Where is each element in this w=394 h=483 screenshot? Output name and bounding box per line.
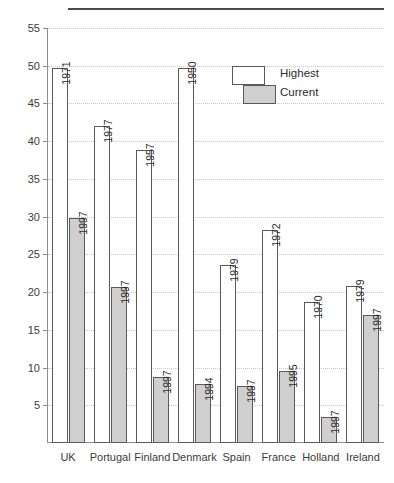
y-tick-mark [43,368,47,369]
y-tick-mark [43,179,47,180]
bar-year-label: 1994 [203,377,215,400]
top-divider-rule [68,8,384,10]
gridline [48,103,384,104]
bar-highest-ireland: 1979 [346,286,362,443]
y-tick-mark [43,254,47,255]
y-tick-label: 20 [28,286,40,298]
gridline [48,66,384,67]
bar-highest-portugal: 1977 [94,126,110,443]
y-tick-label: 55 [28,22,40,34]
bar-highest-denmark: 1950 [178,68,194,443]
legend-label-current: Current [280,86,318,98]
y-tick-label: 15 [28,324,40,336]
bar-highest-france: 1972 [262,230,278,443]
y-tick-label: 40 [28,135,40,147]
bar-year-label: 1979 [228,258,240,281]
bar-year-label: 1997 [161,371,173,394]
y-tick-mark [43,141,47,142]
y-tick-mark [43,405,47,406]
bar-year-label: 1997 [77,211,89,234]
y-tick-label: 35 [28,173,40,185]
y-tick-label: 45 [28,97,40,109]
legend-swatch-highest-icon [232,66,265,85]
bar-year-label: 1970 [312,295,324,318]
bar-highest-uk: 1971 [52,68,68,443]
y-tick-mark [43,28,47,29]
bar-chart: 510152025303540455055 197119971977199719… [0,0,394,483]
bar-year-label: 1995 [287,365,299,388]
legend-label-highest: Highest [280,67,319,79]
bar-year-label: 1957 [144,144,156,167]
bar-current-portugal: 1997 [111,287,127,443]
x-label-uk: UK [60,451,75,463]
bar-current-france: 1995 [279,371,295,443]
bar-current-holland: 1997 [321,417,337,443]
bar-year-label: 1950 [186,61,198,84]
bar-year-label: 1972 [270,224,282,247]
bar-highest-finland: 1957 [136,150,152,443]
bar-year-label: 1979 [354,279,366,302]
bar-year-label: 1997 [371,309,383,332]
bar-year-label: 1977 [102,119,114,142]
gridline [48,28,384,29]
y-tick-label: 50 [28,60,40,72]
x-label-denmark: Denmark [172,451,217,463]
y-tick-label: 10 [28,362,40,374]
y-tick-label: 5 [34,399,40,411]
bar-current-uk: 1997 [69,218,85,443]
bar-year-label: 1997 [329,410,341,433]
bar-year-label: 1997 [119,280,131,303]
bar-year-label: 1971 [60,61,72,84]
y-tick-label: 30 [28,211,40,223]
x-label-ireland: Ireland [346,451,380,463]
x-label-spain: Spain [222,451,250,463]
bar-highest-spain: 1979 [220,265,236,443]
bar-highest-holland: 1970 [304,302,320,443]
bar-current-denmark: 1994 [195,384,211,443]
legend-swatch-current-icon [243,85,276,104]
x-label-holland: Holland [302,451,339,463]
y-tick-mark [43,103,47,104]
y-axis-line [47,28,48,443]
plot-area: 510152025303540455055 197119971977199719… [47,28,384,443]
y-tick-mark [43,292,47,293]
x-label-finland: Finland [134,451,170,463]
bar-year-label: 1997 [245,380,257,403]
y-tick-mark [43,66,47,67]
y-tick-label: 25 [28,248,40,260]
y-tick-mark [43,330,47,331]
x-label-france: France [262,451,296,463]
x-label-portugal: Portugal [90,451,131,463]
bar-current-spain: 1997 [237,386,253,443]
y-tick-mark [43,217,47,218]
bar-current-finland: 1997 [153,377,169,443]
bar-current-ireland: 1997 [363,315,379,443]
